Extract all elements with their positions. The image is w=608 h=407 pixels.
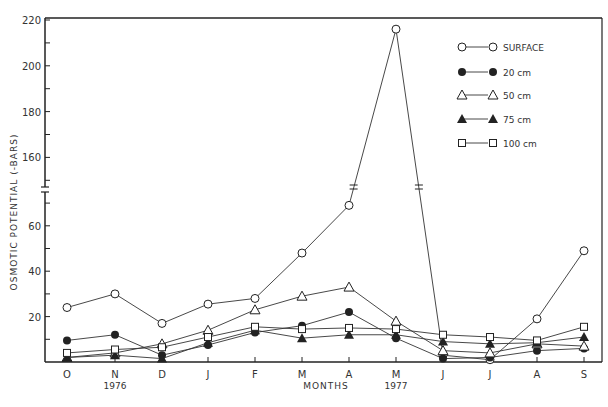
open-circle-marker (345, 201, 353, 209)
open-square-marker (490, 140, 497, 147)
open-triangle-marker (344, 282, 354, 291)
open-square-marker (64, 349, 71, 356)
open-square-marker (393, 326, 400, 333)
open-circle-marker (251, 294, 259, 302)
open-circle-marker (63, 304, 71, 312)
open-triangle-marker (438, 346, 448, 355)
y-tick-label: 180 (22, 107, 41, 118)
open-circle-marker (489, 43, 497, 51)
x-tick-label: A (346, 369, 353, 380)
x-tick-label: O (63, 369, 71, 380)
open-square-marker (159, 344, 166, 351)
x-axis: ONDJFMAMJJAS (63, 357, 587, 380)
open-triangle-marker (203, 325, 213, 334)
filled-circle-marker (458, 68, 466, 76)
series-line (67, 327, 584, 353)
legend-item: 20 cm (458, 68, 531, 78)
series-line (67, 29, 584, 360)
legend-label: 75 cm (503, 115, 531, 125)
x-tick-label: J (441, 369, 445, 380)
x-tick-label: J (206, 369, 210, 380)
legend-label: 100 cm (503, 139, 537, 149)
series-line (67, 312, 584, 359)
open-circle-marker (298, 249, 306, 257)
open-square-marker (440, 331, 447, 338)
open-square-marker (534, 337, 541, 344)
legend-item: SURFACE (458, 43, 544, 53)
open-square-marker (459, 140, 466, 147)
legend-label: 50 cm (503, 91, 531, 101)
y-axis-title: OSMOTIC POTENTIAL (-BARS) (9, 134, 19, 291)
legend-item: 50 cm (457, 90, 531, 101)
x-tick-label: M (298, 369, 307, 380)
legend-item: 100 cm (459, 139, 537, 149)
filled-triangle-marker (488, 114, 498, 123)
legend-label: 20 cm (503, 68, 531, 78)
y-tick-label: 60 (28, 221, 41, 232)
legend-item: 75 cm (457, 114, 531, 125)
legend: SURFACE20 cm50 cm75 cm100 cm (457, 43, 544, 149)
open-triangle-marker (391, 316, 401, 325)
year-label-1976: 1976 (104, 381, 127, 391)
open-square-marker (487, 334, 494, 341)
x-tick-label: M (392, 369, 401, 380)
x-tick-label: F (252, 369, 258, 380)
open-square-marker (205, 334, 212, 341)
open-circle-marker (158, 319, 166, 327)
series-line (67, 287, 584, 357)
filled-triangle-marker (579, 332, 589, 341)
x-tick-label: J (488, 369, 492, 380)
filled-triangle-marker (457, 114, 467, 123)
open-square-marker (299, 326, 306, 333)
x-tick-label: N (111, 369, 118, 380)
x-axis-title: MONTHS (303, 381, 349, 391)
y-tick-label: 200 (22, 61, 41, 72)
open-triangle-marker (250, 305, 260, 314)
y-tick-label: 160 (22, 152, 41, 163)
open-circle-marker (533, 315, 541, 323)
x-tick-label: D (158, 369, 166, 380)
x-tick-label: S (581, 369, 587, 380)
series-20cm (63, 308, 588, 363)
open-circle-marker (580, 247, 588, 255)
series-75cm (62, 325, 589, 362)
open-square-marker (346, 324, 353, 331)
year-label-1977: 1977 (385, 381, 408, 391)
osmotic-potential-chart: 204060160180200220 ONDJFMAMJJAS SURFACE2… (0, 0, 608, 407)
open-circle-marker (204, 300, 212, 308)
series-100cm (64, 323, 588, 356)
y-tick-label: 220 (22, 15, 41, 26)
open-triangle-marker (457, 90, 467, 99)
filled-circle-marker (63, 336, 71, 344)
series-50cm (62, 282, 589, 361)
open-triangle-marker (488, 90, 498, 99)
open-square-marker (581, 323, 588, 330)
open-square-marker (112, 346, 119, 353)
y-tick-label: 40 (28, 266, 41, 277)
open-circle-marker (392, 25, 400, 33)
filled-circle-marker (439, 355, 447, 363)
x-tick-label: A (534, 369, 541, 380)
open-circle-marker (111, 290, 119, 298)
open-square-marker (252, 323, 259, 330)
y-tick-label: 20 (28, 312, 41, 323)
y-axis: 204060160180200220 (22, 15, 50, 362)
legend-label: SURFACE (503, 43, 544, 53)
open-circle-marker (458, 43, 466, 51)
filled-circle-marker (111, 331, 119, 339)
series-line (67, 330, 584, 358)
filled-circle-marker (345, 308, 353, 316)
filled-circle-marker (489, 68, 497, 76)
